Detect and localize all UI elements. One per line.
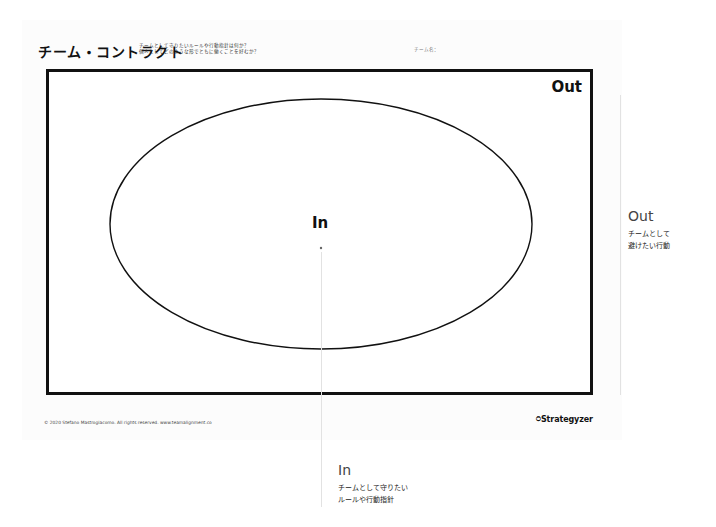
in-callout-text: チームとして守りたい ルールや行動指針	[338, 482, 408, 506]
in-callout-line-2: ルールや行動指針	[338, 494, 408, 506]
brand-logo: ⍥Strategyzer	[536, 415, 593, 425]
in-zone-label: In	[312, 214, 328, 232]
in-callout-guide-line	[321, 252, 322, 507]
copyright-text: © 2020 Stefano Mastrogiacomo. All rights…	[44, 420, 212, 425]
out-callout: Out チームとして 避けたい行動	[628, 208, 670, 252]
in-zone-diagram	[0, 0, 716, 527]
in-callout: In チームとして守りたい ルールや行動指針	[338, 462, 408, 506]
brand-name: Strategyzer	[541, 415, 593, 424]
out-callout-text: チームとして 避けたい行動	[628, 228, 670, 252]
in-callout-heading: In	[338, 462, 408, 479]
out-callout-heading: Out	[628, 208, 670, 225]
in-callout-line-1: チームとして守りたい	[338, 482, 408, 494]
out-callout-guide-line	[620, 95, 621, 395]
in-zone-anchor-dot	[320, 247, 322, 249]
out-callout-line-2: 避けたい行動	[628, 240, 670, 252]
out-callout-line-1: チームとして	[628, 228, 670, 240]
